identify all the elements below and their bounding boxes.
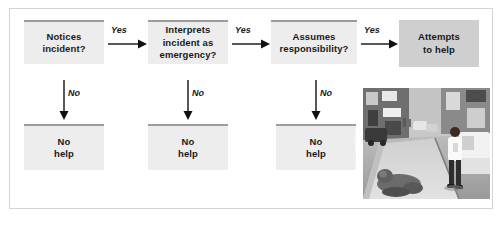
street-scene-photo	[363, 88, 490, 199]
outcome-node-no-help-2-label: No help	[175, 136, 201, 161]
arrow-yes-2	[232, 38, 271, 50]
arrow-yes-3-label: Yes	[364, 25, 380, 35]
outcome-node-no-help-3-label: No help	[303, 136, 329, 161]
photo-credit: © Viviane Moos/CORBIS	[352, 190, 432, 200]
decision-node-interprets: Interprets incident as emergency?	[148, 20, 228, 64]
decision-node-interprets-label: Interprets incident as emergency?	[157, 24, 220, 62]
outcome-node-attempts-to-help: Attempts to help	[399, 20, 479, 67]
arrow-no-3	[310, 80, 322, 121]
outcome-node-no-help-1: No help	[24, 124, 104, 170]
decision-node-notices: Notices incident?	[24, 20, 104, 64]
arrow-no-1-label: No	[68, 88, 80, 98]
decision-node-assumes: Assumes responsibility?	[271, 20, 357, 64]
outcome-node-no-help-1-label: No help	[51, 136, 77, 161]
arrow-yes-2-label: Yes	[235, 25, 251, 35]
arrow-yes-3	[361, 38, 399, 50]
arrow-no-2-label: No	[192, 88, 204, 98]
decision-node-notices-label: Notices incident?	[39, 31, 88, 56]
arrow-no-3-label: No	[320, 88, 332, 98]
decision-node-assumes-label: Assumes responsibility?	[276, 31, 351, 56]
arrow-no-2	[182, 80, 194, 121]
outcome-node-no-help-3: No help	[276, 124, 356, 170]
arrow-yes-1-label: Yes	[111, 25, 127, 35]
figure-root: Notices incident? Interprets incident as…	[0, 0, 503, 226]
outcome-node-attempts-to-help-label: Attempts to help	[415, 31, 463, 56]
arrow-yes-1	[108, 38, 148, 50]
outcome-node-no-help-2: No help	[148, 124, 228, 170]
arrow-no-1	[58, 80, 70, 121]
